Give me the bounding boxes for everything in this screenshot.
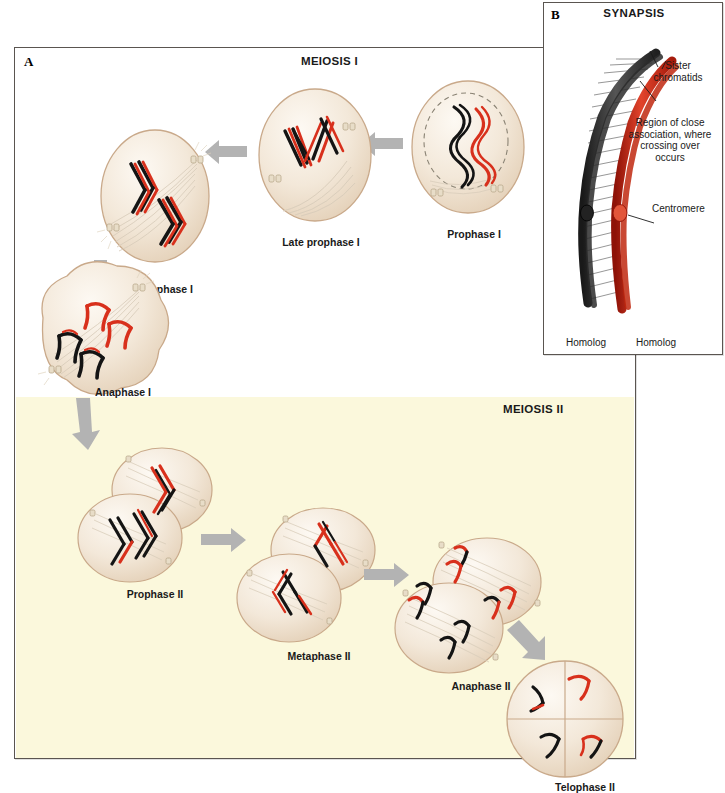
callout-line: Centromere xyxy=(652,203,724,215)
callout-line: Region of close xyxy=(618,117,722,129)
cell-anaphase-1 xyxy=(25,244,185,409)
homolog-label-right: Homolog xyxy=(636,337,676,348)
cell-prophase-1 xyxy=(398,75,548,225)
callout-line: occurs xyxy=(618,152,722,164)
panel-a-letter: A xyxy=(24,54,33,70)
stage-label-prophase-2: Prophase II xyxy=(85,588,225,600)
centromere-red xyxy=(613,205,627,222)
callout-line: chromatids xyxy=(636,72,720,84)
cell-telophase-2 xyxy=(497,653,637,793)
stage-label-metaphase-2: Metaphase II xyxy=(249,650,389,662)
panel-b: B SYNAPSIS xyxy=(543,2,723,355)
callout-line: Sister xyxy=(636,60,720,72)
cell-prophase-2 xyxy=(70,438,230,598)
callout-crossing-over: Region of close association, where cross… xyxy=(618,117,722,163)
stage-label-anaphase-1: Anaphase I xyxy=(53,386,193,398)
stage-label-prophase-1: Prophase I xyxy=(404,228,544,240)
callout-sister-chromatids: Sister chromatids xyxy=(636,60,720,83)
meiosis-i-title: MEIOSIS I xyxy=(301,55,358,67)
stage-label-late-prophase-1: Late prophase I xyxy=(251,236,391,248)
callout-line: association, where xyxy=(618,129,722,141)
stage-label-telophase-2: Telophase II xyxy=(515,781,655,793)
meiosis-ii-title: MEIOSIS II xyxy=(503,403,564,415)
centromere-dark xyxy=(581,205,594,221)
homolog-label-left: Homolog xyxy=(566,337,606,348)
cell-late-prophase-1 xyxy=(243,83,393,233)
callout-centromere: Centromere xyxy=(652,203,724,215)
callout-line: crossing over xyxy=(618,140,722,152)
